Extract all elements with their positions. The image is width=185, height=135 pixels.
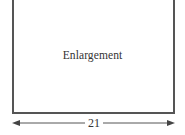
width-dimension-label: 21 (85, 116, 103, 130)
arrowhead-left-icon (12, 120, 20, 126)
arrowhead-right-icon (167, 120, 175, 126)
dimension-arrow-icon (0, 0, 185, 135)
